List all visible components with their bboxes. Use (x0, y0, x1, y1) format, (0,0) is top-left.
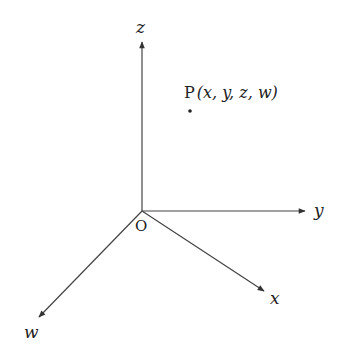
x-axis-label: x (270, 288, 280, 308)
origin-label: O (135, 217, 147, 235)
w-axis (39, 211, 142, 317)
axes-diagram: z y x w O P(x, y, z, w) (0, 0, 345, 358)
point-coordinates: (x, y, z, w) (197, 83, 278, 102)
diagram-canvas: z y x w O P(x, y, z, w) (0, 0, 345, 358)
z-axis-label: z (135, 17, 146, 37)
x-axis (142, 211, 264, 291)
point-p-dot (188, 109, 192, 113)
point-name: P (184, 83, 195, 102)
y-axis-label: y (313, 200, 324, 220)
point-label: P(x, y, z, w) (184, 83, 278, 102)
w-axis-label: w (24, 322, 39, 342)
